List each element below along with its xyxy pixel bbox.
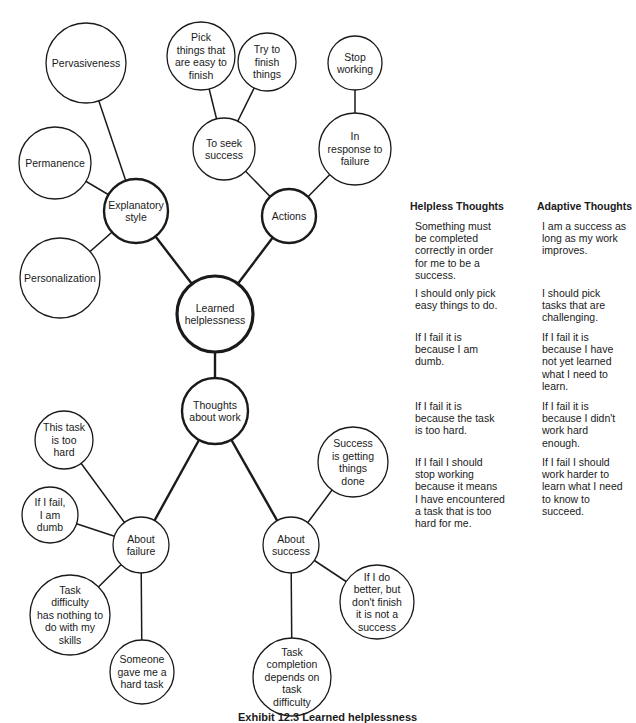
adaptive-thoughts-column: Adaptive Thoughts xyxy=(537,200,636,220)
adaptive-thought: If I fail it is because I have not yet l… xyxy=(539,331,613,392)
figure-caption: Exhibit 12.3 Learned helplessness xyxy=(238,711,417,723)
node-label-about-success: About success xyxy=(263,517,319,573)
node-label-personalization: Personalization xyxy=(20,238,100,318)
node-label-this-task-too-hard: This task is too hard xyxy=(35,411,93,469)
node-label-if-i-fail-dumb: If I fail, I am dumb xyxy=(22,487,78,543)
adaptive-thought: If I fail it is because I didn't work ha… xyxy=(539,400,615,449)
adaptive-thoughts-heading: Adaptive Thoughts xyxy=(537,200,636,212)
node-label-stop-working: Stop working xyxy=(328,36,382,90)
node-label-thoughts-about-work: Thoughts about work xyxy=(182,378,248,444)
node-label-pervasiveness: Pervasiveness xyxy=(46,23,126,103)
helpless-thoughts-column: Helpless Thoughts xyxy=(410,200,528,220)
node-label-task-difficulty-skills: Task difficulty has nothing to do with m… xyxy=(30,575,110,655)
node-label-explanatory-style: Explanatory style xyxy=(104,179,168,243)
node-label-to-seek-success: To seek success xyxy=(193,118,255,180)
node-label-in-response-to-failure: In response to failure xyxy=(319,113,391,185)
helpless-thoughts-heading: Helpless Thoughts xyxy=(410,200,528,212)
helpless-thought: I should only pick easy things to do. xyxy=(412,287,497,311)
node-label-success-getting-done: Success is getting things done xyxy=(318,427,388,497)
node-label-permanence: Permanence xyxy=(19,127,91,199)
helpless-thought: Something must be completed correctly in… xyxy=(412,220,493,281)
node-label-do-better-not-finish: If I do better, but don't finish it is n… xyxy=(340,565,414,639)
node-label-actions: Actions xyxy=(262,189,316,243)
adaptive-thought: I am a success as long as my work improv… xyxy=(539,220,626,257)
adaptive-thought: If I fail I should work harder to learn … xyxy=(539,456,623,517)
helpless-thought: If I fail I should stop working because … xyxy=(412,456,505,529)
helpless-thought: If I fail it is because the task is too … xyxy=(412,400,494,437)
node-label-try-to-finish: Try to finish things xyxy=(238,33,296,91)
helpless-thought: If I fail it is because I am dumb. xyxy=(412,331,478,368)
node-label-about-failure: About failure xyxy=(113,517,169,573)
adaptive-thought: I should pick tasks that are challenging… xyxy=(539,287,605,324)
node-label-task-completion-difficulty: Task completion depends on task difficul… xyxy=(253,638,331,716)
node-label-someone-gave-hard-task: Someone gave me a hard task xyxy=(110,640,174,704)
node-label-pick-easy-things: Pick things that are easy to finish xyxy=(167,22,235,90)
node-label-learned-helplessness: Learned helplessness xyxy=(177,276,253,352)
